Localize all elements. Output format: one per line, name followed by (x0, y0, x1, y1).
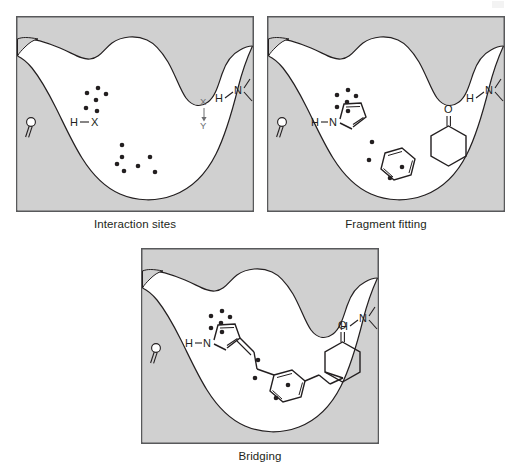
svg-text:N: N (485, 84, 493, 96)
scan-artifact (492, 1, 504, 8)
svg-text:H: H (311, 116, 319, 128)
panel-bridging-canvas: H N H N (141, 248, 379, 444)
svg-text:Y: Y (200, 120, 207, 131)
svg-text:O: O (444, 103, 453, 115)
svg-text:N: N (329, 116, 337, 128)
svg-text:X: X (200, 96, 207, 107)
svg-text:H: H (466, 92, 474, 104)
fragment-based-design-figure: H X X Y H N (0, 0, 519, 467)
panel-bridging: H N H N (141, 248, 379, 444)
svg-text:O: O (338, 319, 347, 331)
svg-text:X: X (91, 116, 99, 128)
panel-fragment-fitting: H N H N (267, 16, 505, 212)
caption-fragment-fitting: Fragment fitting (267, 218, 505, 230)
caption-bridging: Bridging (141, 450, 379, 462)
svg-text:N: N (203, 337, 211, 349)
svg-text:N: N (359, 312, 367, 324)
caption-interaction-sites: Interaction sites (16, 218, 254, 230)
svg-text:H: H (185, 337, 193, 349)
panel-fragment-fitting-canvas: H N H N (267, 16, 505, 212)
panel-interaction-sites-canvas: H X X Y H N (16, 16, 254, 212)
svg-text:N: N (234, 84, 242, 96)
svg-text:H: H (215, 92, 223, 104)
svg-text:H: H (70, 116, 78, 128)
panel-interaction-sites: H X X Y H N (16, 16, 254, 212)
